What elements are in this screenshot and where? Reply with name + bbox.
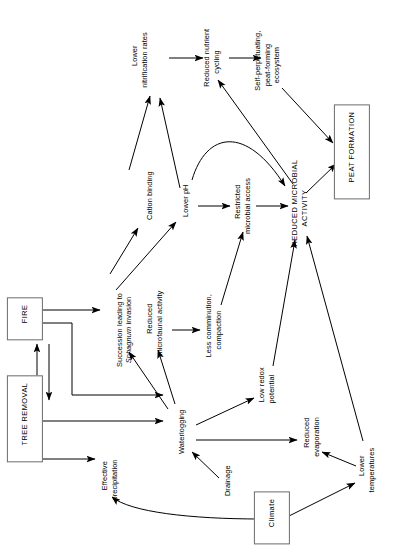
- node-peat-formation-label: PEAT FORMATION: [347, 112, 356, 183]
- node-effective-precipitation-label: Effective precipitation: [101, 459, 119, 500]
- node-tree-removal-label: TREE REMOVAL: [20, 383, 29, 446]
- node-lower-nitrification-rates-label: Lower nitrification rates: [131, 32, 149, 88]
- node-reduced-evaporation[interactable]: Reduced evaporation: [293, 417, 331, 457]
- node-lower-temperatures[interactable]: Lower temperatures: [348, 448, 386, 493]
- edge-succession-to-lower-ph: [116, 222, 176, 290]
- node-fire[interactable]: FIRE: [7, 298, 43, 341]
- diagram-canvas: FIRE TREE REMOVAL Succession leading to …: [0, 0, 399, 553]
- edge-waterlogging-to-succession: [129, 352, 168, 409]
- node-restricted-microbial-access[interactable]: Restricted microbial access: [224, 178, 262, 234]
- node-lower-ph[interactable]: Lower pH: [172, 184, 200, 225]
- node-reduced-microbial-activity[interactable]: REDUCED MICROBIAL ACTIVITY: [281, 160, 319, 257]
- node-cation-binding[interactable]: Cation binding: [136, 171, 164, 228]
- node-lower-temperatures-label: Lower temperatures: [358, 448, 376, 493]
- edge-low-redox-to-reduced-microbial: [273, 240, 295, 366]
- node-lower-nitrification-rates[interactable]: Lower nitrification rates: [121, 32, 159, 88]
- edge-climate-to-lower-temperatures: [285, 483, 355, 518]
- node-climate[interactable]: Climate: [254, 492, 290, 545]
- node-reduced-nutrient-cycling[interactable]: Reduced nutrient cycling: [193, 29, 231, 96]
- node-reduced-nutrient-cycling-label: Reduced nutrient cycling: [203, 29, 221, 87]
- node-fire-label: FIRE: [20, 305, 29, 324]
- node-low-redox-potential-label: Low redox potential: [258, 367, 276, 403]
- node-effective-precipitation[interactable]: Effective precipitation: [91, 459, 129, 500]
- sphagnum-italic-text: Sphagnum: [124, 327, 133, 364]
- node-self-perpetuating-ecosystem-label: Self-perpetuating, peat-forming ecosyste…: [254, 31, 282, 91]
- edge-lower-temperatures-to-reduced-microbial: [307, 236, 363, 441]
- node-reduced-microfaunal-activity[interactable]: Reduced microfaunal activity: [136, 291, 174, 356]
- node-drainage-label: Drainage: [223, 465, 232, 496]
- node-climate-label: Climate: [267, 499, 276, 528]
- node-lower-ph-label: Lower pH: [181, 184, 190, 216]
- node-less-comminution-compaction[interactable]: Less comminution, compaction: [195, 294, 233, 366]
- node-waterlogging[interactable]: Waterlogging: [168, 409, 196, 462]
- edge-waterlogging-to-low-redox: [196, 398, 254, 425]
- node-waterlogging-label: Waterlogging: [177, 409, 186, 453]
- node-succession[interactable]: Succession leading to Sphagnum invasion: [115, 293, 134, 367]
- node-less-comminution-compaction-label: Less comminution, compaction: [205, 294, 223, 357]
- node-low-redox-potential[interactable]: Low redox potential: [248, 367, 286, 411]
- node-tree-removal[interactable]: TREE REMOVAL: [7, 376, 43, 463]
- edge-cation-binding-to-lower-nitrification: [129, 96, 150, 170]
- node-cation-binding-label: Cation binding: [145, 171, 154, 220]
- node-reduced-microbial-activity-label: REDUCED MICROBIAL ACTIVITY: [291, 160, 309, 247]
- edge-waterlogging-to-reduced-faunal: [158, 350, 175, 404]
- node-reduced-microfaunal-activity-label: Reduced microfaunal activity: [146, 291, 164, 356]
- node-restricted-microbial-access-label: Restricted microbial access: [234, 178, 252, 234]
- edge-succession-to-cation-binding: [110, 228, 138, 274]
- node-peat-formation[interactable]: PEAT FORMATION: [334, 105, 370, 200]
- node-drainage[interactable]: Drainage: [214, 465, 242, 504]
- node-self-perpetuating-ecosystem[interactable]: Self-perpetuating, peat-forming ecosyste…: [244, 31, 291, 100]
- node-reduced-evaporation-label: Reduced evaporation: [303, 417, 321, 457]
